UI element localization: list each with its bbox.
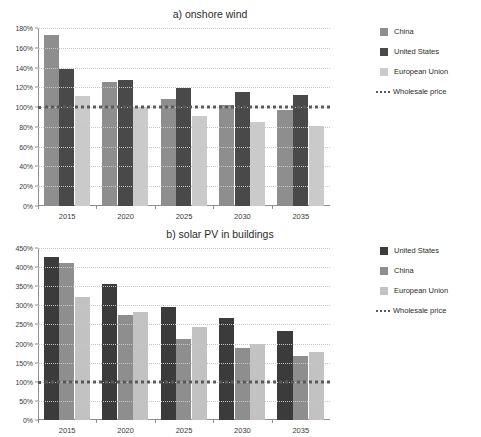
gridline [38, 305, 330, 306]
x-axis-tick [213, 420, 214, 423]
y-axis-tick [35, 324, 38, 325]
legend-item[interactable]: United States [380, 246, 439, 255]
y-axis-tick [35, 28, 38, 29]
legend-label: China [394, 27, 414, 36]
figure-container: a) onshore wind 0%20%40%60%80%100%120%14… [0, 0, 481, 437]
bar [219, 105, 234, 206]
y-axis-tick [35, 146, 38, 147]
y-axis-tick [35, 286, 38, 287]
bar [118, 315, 133, 420]
gridline [38, 267, 330, 268]
y-axis-tick [35, 362, 38, 363]
chart-a-legend: ChinaUnited StatesEuropean UnionWholesal… [380, 27, 481, 107]
y-axis-tick [35, 305, 38, 306]
legend-label: China [394, 266, 414, 275]
y-axis-tick-label: 60% [19, 143, 33, 150]
y-axis-tick-label: 20% [19, 183, 33, 190]
legend-label: United States [394, 246, 439, 255]
y-axis-tick-label: 100% [15, 378, 33, 385]
y-axis-tick [35, 126, 38, 127]
y-axis-tick [35, 400, 38, 401]
y-axis-tick-label: 0% [23, 417, 33, 424]
legend-label: European Union [394, 286, 448, 295]
legend-item-wholesale-price[interactable]: Wholesale price [376, 87, 446, 96]
y-axis-tick [35, 87, 38, 88]
bar [44, 35, 59, 206]
legend-swatch-icon [380, 48, 388, 56]
y-axis-tick-label: 160% [15, 44, 33, 51]
y-axis-tick-label: 250% [15, 321, 33, 328]
y-axis-tick-label: 100% [15, 104, 33, 111]
bar [192, 327, 207, 420]
chart-a-plot: 0%20%40%60%80%100%120%140%160%180% 20152… [0, 28, 330, 206]
x-axis-tick-label: 2030 [234, 426, 251, 435]
gridline [38, 344, 330, 345]
legend-item[interactable]: European Union [380, 286, 448, 295]
y-axis-tick-label: 120% [15, 84, 33, 91]
x-axis-tick-label: 2025 [176, 426, 193, 435]
chart-a-y-axis-labels: 0%20%40%60%80%100%120%140%160%180% [0, 28, 33, 206]
chart-onshore-wind: a) onshore wind 0%20%40%60%80%100%120%14… [0, 0, 481, 220]
bar [102, 82, 117, 206]
y-axis-tick-label: 80% [19, 123, 33, 130]
x-axis-tick-label: 2035 [292, 426, 309, 435]
y-axis-tick-label: 350% [15, 283, 33, 290]
x-axis-tick [155, 206, 156, 209]
bar [102, 284, 117, 420]
legend-swatch-icon [380, 247, 388, 255]
gridline [38, 401, 330, 402]
x-axis-tick [272, 420, 273, 423]
gridline [38, 68, 330, 69]
chart-b-plot: 0%50%100%150%200%250%300%350%400%450% 20… [0, 248, 330, 420]
bar [250, 122, 265, 206]
x-axis-tick [96, 206, 97, 209]
chart-b-legend: United StatesChinaEuropean UnionWholesal… [380, 246, 481, 326]
legend-label: Wholesale price [393, 87, 446, 96]
legend-swatch-icon [380, 267, 388, 275]
legend-dotted-line-icon [376, 310, 390, 312]
legend-item[interactable]: European Union [380, 67, 448, 76]
x-axis-tick [272, 206, 273, 209]
chart-a-bars [38, 28, 330, 206]
y-axis-tick-label: 140% [15, 64, 33, 71]
legend-item-wholesale-price[interactable]: Wholesale price [376, 306, 446, 315]
bar [44, 257, 59, 420]
bar [219, 318, 234, 420]
legend-item[interactable]: China [380, 27, 414, 36]
gridline [38, 166, 330, 167]
legend-dotted-line-icon [376, 91, 390, 93]
y-axis-tick [35, 343, 38, 344]
gridline [38, 87, 330, 88]
y-axis-tick [35, 186, 38, 187]
chart-b-y-axis-labels: 0%50%100%150%200%250%300%350%400%450% [0, 248, 33, 420]
bar [293, 95, 308, 206]
legend-label: United States [394, 47, 439, 56]
x-axis-tick-label: 2015 [59, 426, 76, 435]
y-axis-tick [35, 67, 38, 68]
y-axis-tick-label: 40% [19, 163, 33, 170]
legend-swatch-icon [380, 287, 388, 295]
chart-a-title: a) onshore wind [90, 8, 330, 20]
bar [192, 116, 207, 206]
y-axis-tick-label: 300% [15, 302, 33, 309]
chart-b-axes [38, 248, 330, 420]
y-axis-tick [35, 47, 38, 48]
chart-b-title: b) solar PV in buildings [100, 228, 340, 240]
legend-item[interactable]: China [380, 266, 414, 275]
legend-item[interactable]: United States [380, 47, 439, 56]
gridline [38, 28, 330, 29]
y-axis-tick [35, 248, 38, 249]
legend-swatch-icon [380, 68, 388, 76]
gridline [38, 363, 330, 364]
bar [235, 348, 250, 420]
y-axis-tick [35, 166, 38, 167]
legend-label: Wholesale price [393, 306, 446, 315]
bar [235, 92, 250, 206]
chart-b-bars [38, 248, 330, 420]
y-axis-tick-label: 0% [23, 203, 33, 210]
chart-solar-pv-buildings: b) solar PV in buildings 0%50%100%150%20… [0, 220, 481, 437]
gridline [38, 286, 330, 287]
x-axis-tick-label: 2020 [117, 426, 134, 435]
y-axis-tick [35, 267, 38, 268]
x-axis-tick [96, 420, 97, 423]
